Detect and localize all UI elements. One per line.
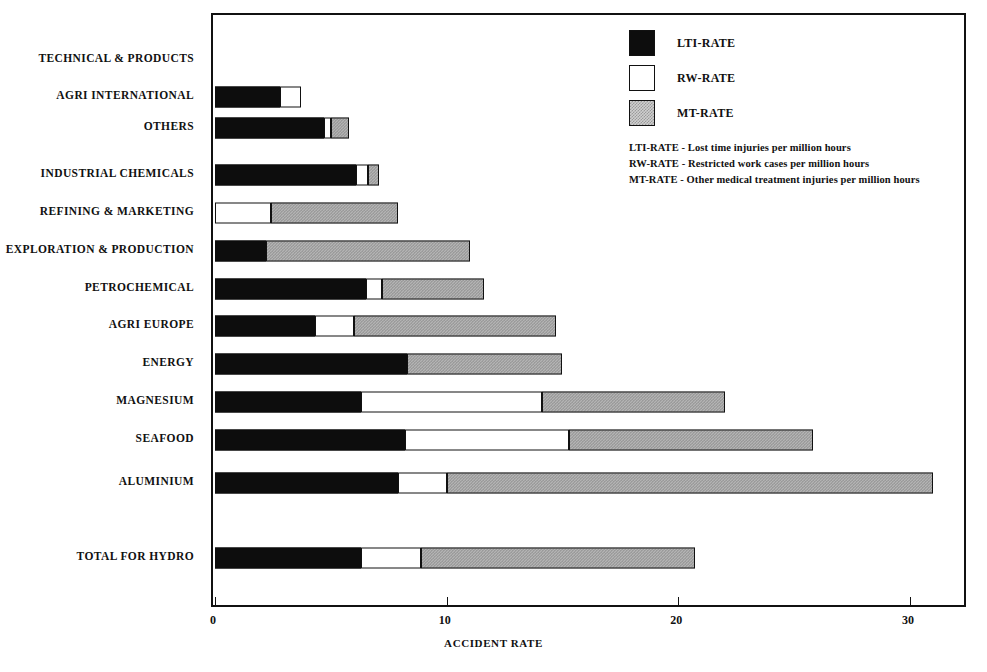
legend-entry: MT-RATE [629, 100, 920, 126]
chart-legend: LTI-RATERW-RATEMT-RATE LTI-RATE - Lost t… [629, 30, 920, 188]
category-label: AGRI INTERNATIONAL [56, 89, 194, 101]
legend-note: RW-RATE - Restricted work cases per mill… [629, 156, 920, 172]
x-tick [678, 597, 679, 606]
legend-note: MT-RATE - Other medical treatment injuri… [629, 172, 920, 188]
x-tick-label: 0 [210, 613, 216, 628]
legend-label: MT-RATE [677, 106, 734, 121]
x-axis-title: ACCIDENT RATE [0, 637, 987, 649]
legend-entry: RW-RATE [629, 65, 920, 91]
legend-entries: LTI-RATERW-RATEMT-RATE [629, 30, 920, 126]
category-label: TECHNICAL & PRODUCTS [38, 52, 194, 64]
x-tick-label: 10 [439, 613, 451, 628]
category-label: INDUSTRIAL CHEMICALS [41, 167, 194, 179]
x-tick [215, 597, 216, 606]
legend-swatch-mt [629, 100, 655, 126]
category-label: PETROCHEMICAL [85, 281, 194, 293]
category-label: EXPLORATION & PRODUCTION [6, 243, 194, 255]
category-label: ENERGY [142, 356, 194, 368]
category-label: AGRI EUROPE [109, 318, 194, 330]
x-tick [447, 597, 448, 606]
legend-notes: LTI-RATE - Lost time injuries per millio… [629, 140, 920, 188]
x-tick [910, 597, 911, 606]
legend-swatch-lti [629, 30, 655, 56]
legend-swatch-rw [629, 65, 655, 91]
legend-note: LTI-RATE - Lost time injuries per millio… [629, 140, 920, 156]
category-label: TOTAL FOR HYDRO [77, 550, 194, 562]
x-tick-label: 20 [670, 613, 682, 628]
category-label: MAGNESIUM [116, 394, 194, 406]
legend-label: LTI-RATE [677, 36, 735, 51]
category-label: OTHERS [144, 120, 194, 132]
category-label: REFINING & MARKETING [40, 205, 194, 217]
legend-entry: LTI-RATE [629, 30, 920, 56]
category-label: SEAFOOD [136, 432, 194, 444]
category-label: ALUMINIUM [119, 475, 194, 487]
legend-label: RW-RATE [677, 71, 735, 86]
x-tick-label: 30 [902, 613, 914, 628]
